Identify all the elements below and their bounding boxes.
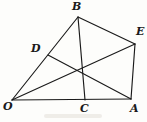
segment-OB bbox=[12, 17, 78, 100]
paper-smudge bbox=[44, 114, 102, 118]
segment-OA bbox=[12, 99, 131, 100]
vertex-label-E: E bbox=[136, 26, 144, 37]
vertex-label-O: O bbox=[3, 101, 13, 112]
segment-EA bbox=[131, 44, 135, 99]
segment-DA bbox=[48, 55, 131, 99]
vertex-label-C: C bbox=[80, 103, 89, 114]
vertex-label-B: B bbox=[72, 1, 81, 12]
geometry-figure: O A B C D E bbox=[0, 0, 147, 122]
segment-BC bbox=[78, 17, 85, 100]
segments-group bbox=[12, 17, 135, 100]
vertex-label-D: D bbox=[31, 43, 41, 54]
geometry-canvas bbox=[0, 0, 147, 122]
segment-BE bbox=[78, 17, 135, 44]
vertex-label-A: A bbox=[130, 103, 139, 114]
